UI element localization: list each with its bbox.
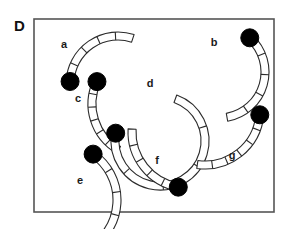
- arc-terminal-bead: [107, 124, 125, 142]
- arc-label-e: e: [77, 174, 83, 186]
- arc-terminal-bead: [88, 73, 106, 91]
- arc-terminal-bead: [251, 106, 269, 124]
- arc-label-g: g: [229, 149, 236, 161]
- arc-label-b: b: [211, 36, 218, 48]
- arc-label-f: f: [155, 154, 159, 166]
- panel-letter: D: [14, 17, 25, 34]
- figure-panel: D abcdefg: [0, 0, 285, 229]
- arc-terminal-bead: [84, 145, 102, 163]
- arc-terminal-bead: [61, 72, 79, 90]
- arc-terminal-bead: [241, 29, 259, 47]
- arc-terminal-bead: [169, 178, 187, 196]
- arc-label-a: a: [61, 38, 68, 50]
- arc-label-c: c: [75, 92, 81, 104]
- figure-canvas: D abcdefg: [0, 0, 285, 229]
- arc-label-d: d: [147, 77, 154, 89]
